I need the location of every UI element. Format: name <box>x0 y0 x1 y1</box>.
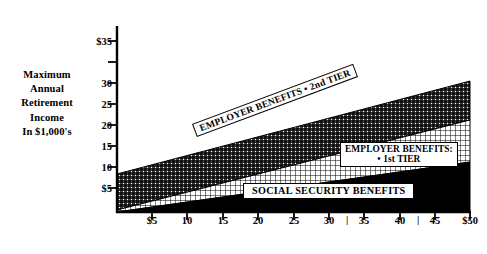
annotation-employer-benefits-1st-tier: EMPLOYER BENEFITS: • 1st TIER <box>340 142 458 167</box>
annotation-tier1-line-1: EMPLOYER BENEFITS: <box>345 144 453 154</box>
retirement-income-chart: Maximum Annual Retirement Income In $1,0… <box>0 0 487 254</box>
annotation-social-security-benefits: SOCIAL SECURITY BENEFITS <box>243 183 414 199</box>
x-tick-label-30: 30 <box>324 215 335 226</box>
x-tick-label-45: 45 <box>430 215 441 226</box>
x-tick-label-5: $5 <box>147 215 158 226</box>
x-tick-label-35: 35 <box>359 215 370 226</box>
x-minor-tick-label-2: | <box>417 214 419 225</box>
x-tick-label-20: 20 <box>253 215 264 226</box>
x-axis-tick-labels: $5 10 15 20 25 30 | 35 40 | 45 $50 <box>0 0 487 254</box>
x-tick-label-10: 10 <box>182 215 193 226</box>
x-tick-label-15: 15 <box>218 215 229 226</box>
x-tick-label-25: 25 <box>289 215 300 226</box>
x-minor-tick-label-1: | <box>346 214 348 225</box>
x-tick-label-40: 40 <box>395 215 406 226</box>
x-tick-label-50: $50 <box>462 215 478 226</box>
annotation-tier1-line-2: • 1st TIER <box>345 154 453 164</box>
